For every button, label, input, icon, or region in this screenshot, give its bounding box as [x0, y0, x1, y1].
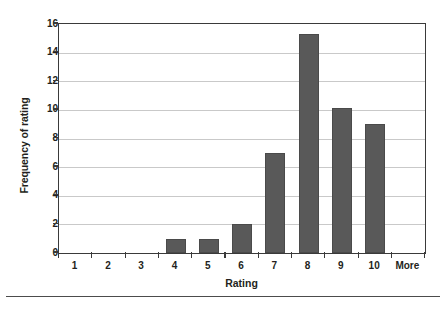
bar	[265, 153, 285, 253]
x-tick-label: 1	[58, 259, 91, 273]
plot-area	[58, 23, 426, 254]
x-tick-mark	[358, 252, 359, 258]
x-axis-ticks	[58, 252, 425, 258]
y-tick-label: 0	[28, 246, 58, 258]
x-tick-label: 8	[291, 259, 324, 273]
bar	[365, 124, 385, 253]
y-tick-label: 12	[28, 74, 58, 86]
y-tick-label: 2	[28, 217, 58, 229]
x-tick-mark	[158, 252, 159, 258]
x-tick-label: 5	[191, 259, 224, 273]
y-tick-label: 10	[28, 103, 58, 115]
y-tick-label: 8	[28, 132, 58, 144]
x-axis-tick-labels: 12345678910More	[58, 259, 425, 273]
bar	[299, 34, 319, 253]
bar	[332, 108, 352, 253]
x-tick-label: 2	[91, 259, 124, 273]
x-tick-mark	[191, 252, 192, 258]
figure-container: Frequency of rating 0246810121416 123456…	[0, 0, 446, 310]
bottom-divider	[6, 296, 440, 297]
x-tick-mark	[91, 252, 92, 258]
x-tick-label: 9	[324, 259, 357, 273]
x-tick-label: 6	[224, 259, 257, 273]
x-tick-label: 4	[158, 259, 191, 273]
x-tick-mark	[58, 252, 59, 258]
x-tick-mark	[391, 252, 392, 258]
y-tick-label: 16	[28, 17, 58, 29]
x-tick-mark	[125, 252, 126, 258]
x-tick-mark	[424, 252, 425, 258]
bar	[199, 239, 219, 253]
y-tick-label: 14	[28, 46, 58, 58]
x-tick-mark	[258, 252, 259, 258]
x-tick-label: More	[391, 259, 424, 273]
y-axis-title: Frequency of rating	[16, 31, 32, 260]
x-tick-mark	[324, 252, 325, 258]
y-tick-label: 6	[28, 160, 58, 172]
x-axis-title: Rating	[58, 277, 425, 289]
x-tick-mark	[224, 252, 225, 258]
bar-series	[59, 24, 425, 253]
x-tick-mark	[291, 252, 292, 258]
x-tick-label: 7	[258, 259, 291, 273]
bar	[166, 239, 186, 253]
y-tick-label: 4	[28, 189, 58, 201]
bar	[232, 224, 252, 253]
x-tick-label: 3	[125, 259, 158, 273]
x-tick-label: 10	[358, 259, 391, 273]
